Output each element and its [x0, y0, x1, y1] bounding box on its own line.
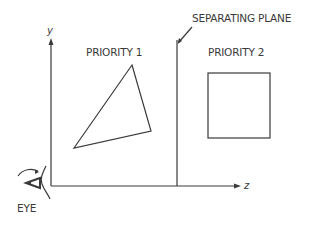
separating-plane-diagram: y z SEPARATING PLANE PRIORITY 1 PRIORITY… [0, 0, 314, 230]
square-rect [208, 73, 270, 138]
triangle-polygon [74, 65, 151, 148]
eye-figure: EYE [17, 166, 50, 214]
y-axis-arrow-icon [49, 38, 54, 45]
z-axis: z [51, 180, 250, 191]
priority-2-object: PRIORITY 2 [208, 46, 270, 138]
priority-2-label: PRIORITY 2 [208, 46, 264, 58]
y-axis-label: y [46, 25, 54, 36]
z-axis-arrow-icon [234, 184, 241, 189]
y-axis: y [46, 25, 54, 186]
z-axis-label: z [243, 180, 250, 191]
priority-1-label: PRIORITY 1 [86, 46, 142, 58]
separating-plane-label: SEPARATING PLANE [192, 12, 291, 24]
face-profile-icon [41, 166, 50, 199]
separating-plane: SEPARATING PLANE [177, 12, 291, 186]
priority-1-object: PRIORITY 1 [74, 46, 151, 148]
eye-label: EYE [17, 202, 36, 214]
